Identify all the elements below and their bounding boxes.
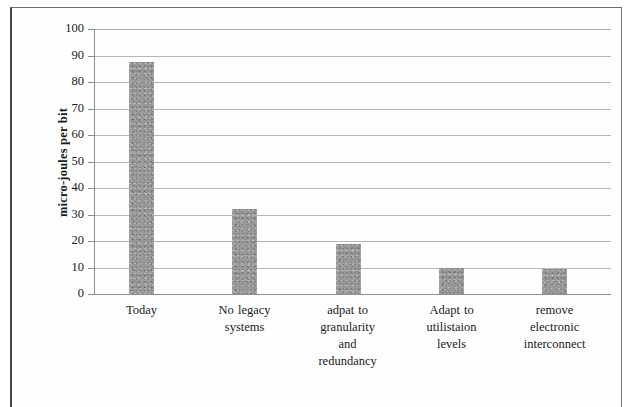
y-axis-tick-label: 90 xyxy=(50,49,84,62)
x-axis-label-line: adpat to xyxy=(296,302,399,319)
y-axis-tick-label: 0 xyxy=(50,287,84,300)
gridline xyxy=(95,215,611,216)
gridline xyxy=(95,29,611,30)
gridline xyxy=(95,188,611,189)
x-axis-tick-label: removeelectronicinterconnect xyxy=(503,302,606,353)
x-axis-label-line: and xyxy=(296,336,399,353)
bar xyxy=(232,209,257,294)
x-axis-tick-label: adpat togranularityandredundancy xyxy=(296,302,399,370)
x-axis-tick-labels: TodayNo legacysystemsadpat togranularity… xyxy=(95,302,611,394)
gridline xyxy=(95,241,611,242)
x-axis-label-line: remove xyxy=(503,302,606,319)
x-axis-label-line: granularity xyxy=(296,319,399,336)
plot-area xyxy=(95,29,611,294)
x-axis-tick-label: No legacysystems xyxy=(193,302,296,336)
y-axis-tick-label: 100 xyxy=(50,22,84,35)
x-axis-label-line: utilistaion xyxy=(400,319,503,336)
bar xyxy=(542,269,567,294)
gridline xyxy=(95,82,611,83)
x-axis-label-line: Today xyxy=(90,302,193,319)
y-axis-tick-label: 60 xyxy=(50,128,84,141)
y-axis-tick-label: 40 xyxy=(50,181,84,194)
x-axis-label-line: Adapt to xyxy=(400,302,503,319)
x-axis-label-line: electronic xyxy=(503,319,606,336)
y-axis-tick-label: 50 xyxy=(50,155,84,168)
y-axis-tick-labels: 1009080706050403020100 xyxy=(50,22,84,300)
y-axis-tick-label: 10 xyxy=(50,261,84,274)
y-axis-tick-label: 70 xyxy=(50,102,84,115)
y-axis-tick-label: 30 xyxy=(50,208,84,221)
x-axis-label-line: systems xyxy=(193,319,296,336)
x-axis-label-line: redundancy xyxy=(296,353,399,370)
bar xyxy=(129,62,154,294)
bar xyxy=(439,268,464,295)
x-axis-tick-label: Today xyxy=(90,302,193,319)
x-axis-label-line: No legacy xyxy=(193,302,296,319)
x-axis-tick-label: Adapt toutilistaionlevels xyxy=(400,302,503,353)
x-axis-label-line: interconnect xyxy=(503,336,606,353)
x-axis-line xyxy=(95,294,611,295)
gridline xyxy=(95,109,611,110)
gridline xyxy=(95,56,611,57)
gridline xyxy=(95,162,611,163)
x-axis-label-line: levels xyxy=(400,336,503,353)
y-axis-tick-label: 20 xyxy=(50,234,84,247)
gridline xyxy=(95,135,611,136)
bar xyxy=(336,244,361,294)
y-axis-tick-label: 80 xyxy=(50,75,84,88)
